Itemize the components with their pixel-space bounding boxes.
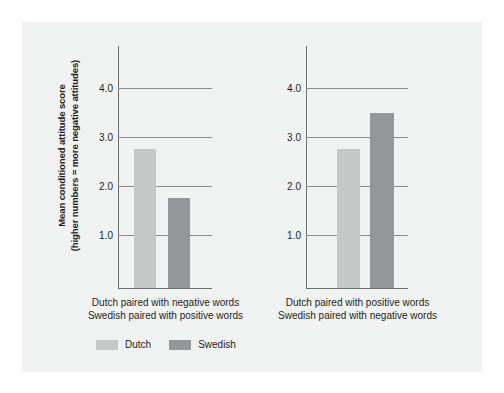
bar-swedish-right: [370, 113, 394, 288]
legend-swatch-dutch-icon: [96, 340, 118, 350]
legend-item-dutch: Dutch: [96, 339, 151, 350]
y-axis-title-line2: (higher numbers = more negative attitude…: [68, 41, 81, 271]
x-axis-label-left-line1: Dutch paired with negative words: [83, 296, 248, 309]
gridline-1-left: 1.0: [118, 235, 212, 236]
x-axis-label-right-line1: Dutch paired with positive words: [275, 296, 440, 309]
bar-swedish-left: [168, 198, 190, 288]
y-axis-line-left: [118, 46, 119, 289]
legend-swatch-swedish-icon: [169, 340, 191, 350]
bar-dutch-left: [134, 149, 156, 288]
legend-item-swedish: Swedish: [169, 339, 236, 350]
x-axis-line-left: [118, 288, 212, 289]
gridline-2-left: 2.0: [118, 186, 212, 187]
y-tick-label-3-left: 3.0: [99, 132, 113, 143]
y-axis-title-line1: Mean conditioned attitude score: [56, 41, 69, 271]
y-axis-title: Mean conditioned attitude score (higher …: [56, 41, 81, 271]
gridline-3-left: 3.0: [118, 137, 212, 138]
y-tick-label-3-right: 3.0: [287, 132, 301, 143]
x-axis-label-left: Dutch paired with negative words Swedish…: [83, 296, 248, 322]
y-tick-label-4-left: 4.0: [99, 83, 113, 94]
x-axis-label-left-line2: Swedish paired with positive words: [83, 309, 248, 322]
y-tick-label-1-right: 1.0: [287, 230, 301, 241]
y-tick-label-1-left: 1.0: [99, 230, 113, 241]
gridline-4-left: 4.0: [118, 88, 212, 89]
y-axis-line-right: [306, 46, 307, 289]
gridline-4-right: 4.0: [306, 88, 408, 89]
plot-panel-right: 4.0 3.0 2.0 1.0: [306, 46, 408, 289]
x-axis-label-right: Dutch paired with positive words Swedish…: [275, 296, 440, 322]
x-axis-line-right: [306, 288, 408, 289]
chart-figure: Mean conditioned attitude score (higher …: [0, 0, 504, 393]
legend-label-swedish: Swedish: [198, 339, 236, 350]
x-axis-label-right-line2: Swedish paired with negative words: [275, 309, 440, 322]
legend-label-dutch: Dutch: [125, 339, 151, 350]
chart-legend: Dutch Swedish: [96, 339, 236, 350]
y-tick-label-2-left: 2.0: [99, 181, 113, 192]
bar-dutch-right: [337, 149, 360, 288]
y-tick-label-2-right: 2.0: [287, 181, 301, 192]
y-tick-label-4-right: 4.0: [287, 83, 301, 94]
plot-panel-left: 4.0 3.0 2.0 1.0: [118, 46, 212, 289]
